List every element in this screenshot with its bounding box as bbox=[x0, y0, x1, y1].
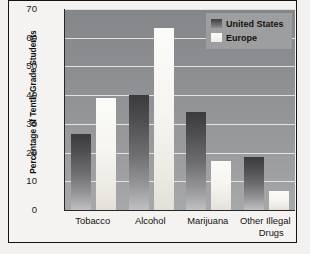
legend-swatch-icon-europe bbox=[211, 33, 222, 42]
bar-alcohol-europe bbox=[154, 28, 174, 210]
legend-item-united-states: United States bbox=[211, 17, 288, 30]
x-axis-category-label-line: Other Illegal bbox=[231, 215, 301, 227]
bar-other-illegal-drugs-europe bbox=[269, 191, 289, 210]
legend-swatch-icon-united-states bbox=[211, 19, 222, 28]
y-axis-tick-label: 20 bbox=[15, 148, 37, 158]
legend-label-europe: Europe bbox=[226, 33, 257, 43]
y-axis-tick-label: 60 bbox=[15, 33, 37, 43]
y-axis-tick-label: 0 bbox=[15, 205, 37, 215]
bar-other-illegal-drugs-united-states bbox=[244, 157, 264, 210]
bar-marijuana-united-states bbox=[186, 112, 206, 210]
bar-tobacco-europe bbox=[96, 98, 116, 210]
gridline bbox=[65, 95, 295, 96]
bar-alcohol-united-states bbox=[129, 95, 149, 210]
gridline bbox=[65, 9, 295, 10]
y-axis-tick-label: 10 bbox=[15, 176, 37, 186]
y-axis-tick-label: 40 bbox=[15, 90, 37, 100]
bar-marijuana-europe bbox=[211, 161, 231, 210]
chart-figure-frame: Percentage of Tenth-Grade Students 01020… bbox=[8, 0, 297, 243]
chart-legend: United States Europe bbox=[206, 13, 292, 49]
legend-label-united-states: United States bbox=[226, 19, 284, 29]
legend-item-europe: Europe bbox=[211, 31, 288, 44]
y-axis-tick-label: 30 bbox=[15, 119, 37, 129]
y-axis-tick-label: 50 bbox=[15, 61, 37, 71]
x-axis-category-label-line: Drugs bbox=[231, 227, 301, 239]
gridline bbox=[65, 66, 295, 67]
bar-tobacco-united-states bbox=[71, 134, 91, 210]
y-axis-tick-label: 70 bbox=[15, 4, 37, 14]
x-axis-category-label: Other IllegalDrugs bbox=[231, 215, 301, 238]
